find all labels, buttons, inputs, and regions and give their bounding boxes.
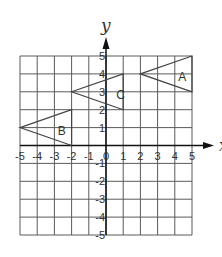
y-tick-label: 5	[99, 50, 105, 62]
y-tick-label: -3	[95, 193, 105, 205]
y-tick-label: -5	[95, 229, 105, 241]
x-tick-label: -3	[50, 150, 60, 162]
y-axis-arrow-icon	[103, 37, 110, 49]
x-tick-label: -2	[67, 150, 77, 162]
x-tick-label: 1	[120, 150, 126, 162]
y-tick-label: 2	[99, 104, 105, 116]
x-tick-label: -4	[32, 150, 42, 162]
y-tick-label: -4	[95, 211, 105, 223]
y-tick-label: 4	[99, 68, 105, 80]
x-tick-label: -5	[15, 150, 25, 162]
x-tick-label: 4	[172, 150, 178, 162]
x-tick-label: 2	[137, 150, 143, 162]
x-tick-label: -1	[84, 150, 94, 162]
coordinate-plane: x y -5-4-3-2-1012345 54321-1-2-3-4-5 ABC	[0, 0, 222, 257]
y-tick-label: -1	[95, 157, 105, 169]
y-tick-label: -2	[95, 175, 105, 187]
y-tick-label: 1	[99, 122, 105, 134]
triangle-label-c: C	[116, 88, 125, 102]
x-axis-label: x	[219, 136, 222, 155]
y-tick-label: 3	[99, 86, 105, 98]
x-tick-label: 5	[189, 150, 195, 162]
x-tick-labels: -5-4-3-2-1012345	[15, 150, 195, 162]
coordinate-plane-figure: x y -5-4-3-2-1012345 54321-1-2-3-4-5 ABC	[0, 0, 222, 257]
x-tick-label: 3	[155, 150, 161, 162]
triangle-label-b: B	[58, 124, 66, 138]
y-axis-label: y	[100, 15, 111, 35]
x-axis-arrow-icon	[203, 142, 214, 149]
triangle-label-a: A	[178, 70, 186, 84]
